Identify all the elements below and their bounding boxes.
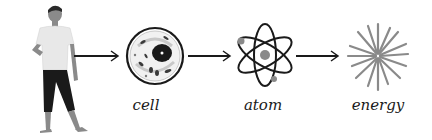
arrow-right-icon bbox=[296, 50, 340, 62]
energy-label: energy bbox=[350, 96, 406, 114]
cell-illustration bbox=[124, 26, 186, 88]
arrow-right-icon bbox=[188, 50, 232, 62]
energy-burst-icon bbox=[346, 20, 410, 92]
atom-illustration bbox=[232, 20, 298, 90]
atom-label: atom bbox=[240, 96, 286, 114]
arrow-right-icon bbox=[74, 50, 120, 62]
person-figure bbox=[10, 0, 90, 140]
cell-label: cell bbox=[126, 96, 166, 114]
